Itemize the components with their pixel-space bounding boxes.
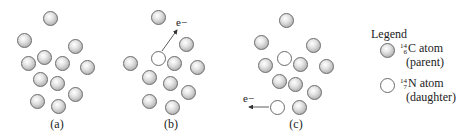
electron-label-c: e−: [243, 92, 254, 104]
legend-sub-daughter: (daughter): [400, 90, 456, 104]
parent-atom-icon: [55, 56, 70, 71]
parent-atom-icon: [142, 94, 157, 109]
legend-label-daughter: N atom: [408, 76, 444, 90]
parent-atom-icon: [293, 57, 308, 72]
parent-atom-icon: [306, 38, 321, 53]
parent-atom-icon: [167, 56, 182, 71]
isotope-notation: 146: [400, 43, 407, 55]
decay-diagram: (a) (b) (c) e− e− Legend 146C atom (pare…: [0, 0, 467, 139]
parent-atom-icon: [43, 11, 58, 26]
parent-atom-icon: [21, 56, 36, 71]
panel-label-a: (a): [50, 117, 63, 132]
parent-atom-icon: [37, 50, 52, 65]
parent-atom-icon: [142, 70, 157, 85]
parent-atom-icon: [181, 85, 196, 100]
parent-atom-icon: [17, 33, 32, 48]
parent-atom-icon: [163, 76, 178, 91]
parent-atom-icon: [123, 56, 138, 71]
daughter-atom-icon: [270, 100, 285, 115]
parent-atom-icon: [179, 37, 194, 52]
isotope-notation: 147: [400, 78, 407, 90]
parent-atom-icon: [254, 35, 269, 50]
parent-atom-icon: [68, 39, 83, 54]
parent-atom-icon: [51, 99, 66, 114]
daughter-atom-icon: [151, 51, 166, 66]
daughter-atom-icon: [380, 78, 395, 93]
parent-atom-icon: [33, 72, 48, 87]
parent-atom-icon: [288, 77, 303, 92]
legend-label-parent: C atom: [408, 41, 443, 55]
parent-atom-icon: [307, 85, 322, 100]
parent-atom-icon: [279, 13, 294, 28]
parent-atom-icon: [380, 43, 395, 58]
parent-atom-icon: [80, 60, 95, 75]
arrow-layer: [0, 0, 467, 139]
panel-label-c: (c): [289, 117, 302, 132]
parent-atom-icon: [190, 60, 205, 75]
parent-atom-icon: [50, 76, 65, 91]
parent-atom-icon: [292, 100, 307, 115]
electron-arrow-icon: [162, 30, 177, 51]
parent-atom-icon: [151, 10, 166, 25]
panel-label-b: (b): [164, 117, 178, 132]
parent-atom-icon: [30, 94, 45, 109]
electron-label-b: e−: [176, 16, 187, 28]
daughter-atom-icon: [277, 51, 292, 66]
legend-title: Legend: [371, 27, 407, 42]
parent-atom-icon: [68, 87, 83, 102]
parent-atom-icon: [319, 59, 334, 74]
parent-atom-icon: [258, 58, 273, 73]
parent-atom-icon: [165, 100, 180, 115]
parent-atom-icon: [272, 74, 287, 89]
legend-sub-parent: (parent): [400, 55, 444, 69]
